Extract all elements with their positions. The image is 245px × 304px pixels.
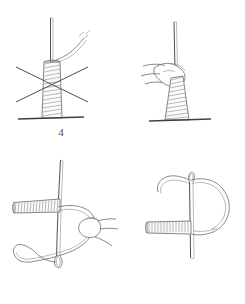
diagram-panel-step-4: 4 [0,0,122,152]
diagram-panel-step-6: 6 [0,152,122,304]
vertical-needle [174,22,178,70]
vertical-needle [51,18,54,62]
thread-lower-tail [194,228,218,231]
horizontal-wrapped-coil [146,221,192,234]
cut-thread-marks [79,30,90,39]
long-needle-shaft [190,182,195,259]
needle-eye-top [189,172,195,182]
figure-sheet: 4 [0,0,245,304]
horizontal-wrapped-coil [13,199,61,213]
fabric-base-line [18,117,84,119]
diagram-panel-step-7: 7 [123,152,245,304]
fabric-base-line [149,119,211,121]
diagram-panel-step-5: 5 [123,0,245,152]
thread-tail-curving-right [52,38,87,64]
wrapped-coil [42,60,62,118]
fingers-pulling-thread [79,217,118,246]
panel-number-4: 4 [0,126,122,138]
